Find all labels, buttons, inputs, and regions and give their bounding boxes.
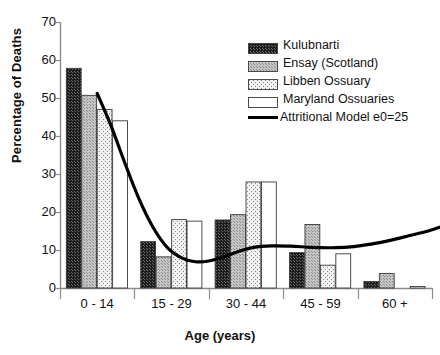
bar (290, 253, 305, 288)
x-tick-label: 60 + (358, 296, 432, 318)
bar (364, 282, 379, 288)
chart-legend: KulubnartiEnsay (Scotland)Libben Ossuary… (248, 36, 434, 126)
bar (156, 257, 171, 288)
bar (82, 95, 97, 288)
chart-figure: Percentage of Deaths Age (years) 0102030… (0, 0, 440, 355)
bar (66, 68, 81, 288)
bar (410, 286, 425, 288)
legend-item: Libben Ossuary (248, 72, 434, 90)
bar (187, 221, 202, 288)
x-tick-label: 0 - 14 (60, 296, 134, 318)
legend-item: Maryland Ossuaries (248, 90, 434, 108)
x-tick-label: 15 - 29 (134, 296, 208, 318)
legend-item-line: Attritional Model e0=25 (248, 108, 434, 126)
legend-swatch-icon (248, 76, 278, 87)
legend-item: Ensay (Scotland) (248, 54, 434, 72)
legend-label: Kulubnarti (283, 38, 339, 52)
legend-label: Maryland Ossuaries (283, 92, 394, 106)
legend-swatch-icon (248, 40, 278, 51)
bar (97, 109, 112, 288)
bar (305, 225, 320, 288)
x-tick-label: 30 - 44 (209, 296, 283, 318)
bar (336, 254, 351, 288)
legend-line-icon (248, 112, 278, 123)
bar (379, 274, 394, 288)
x-tick-label: 45 - 59 (283, 296, 357, 318)
bar (261, 182, 276, 288)
legend-item: Kulubnarti (248, 36, 434, 54)
legend-label: Attritional Model e0=25 (280, 110, 408, 124)
legend-swatch-icon (248, 94, 278, 105)
legend-label: Ensay (Scotland) (283, 56, 378, 70)
bar (320, 265, 335, 288)
bar (246, 182, 261, 288)
legend-swatch-icon (248, 58, 278, 69)
bar (141, 242, 156, 288)
legend-label: Libben Ossuary (283, 74, 371, 88)
x-axis-tick-labels: 0 - 1415 - 2930 - 4445 - 5960 + (60, 296, 432, 318)
